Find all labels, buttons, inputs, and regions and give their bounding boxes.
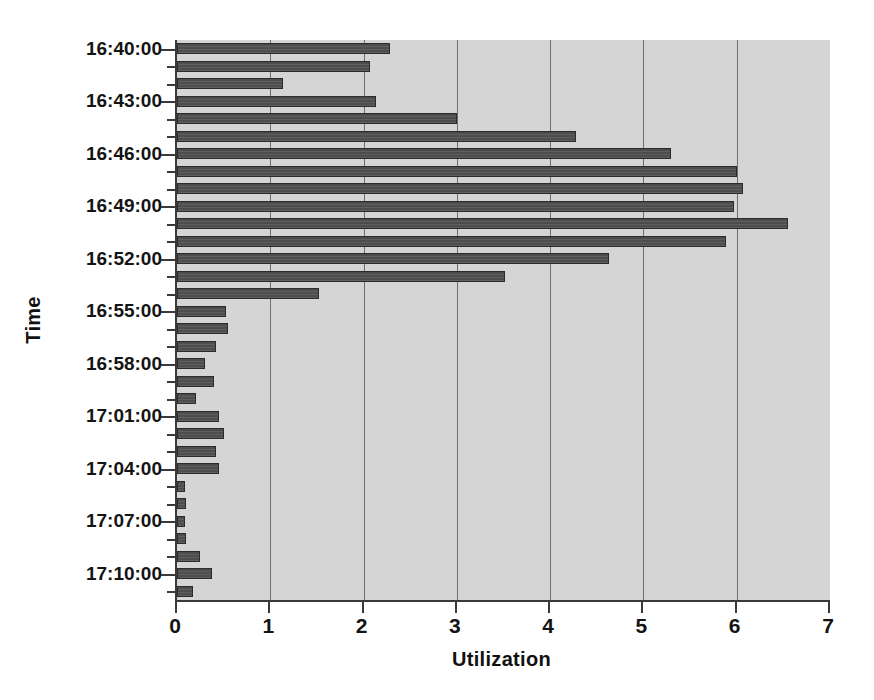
y-axis-major-tick <box>161 154 177 156</box>
bar-row <box>177 61 830 72</box>
bar-row <box>177 201 830 212</box>
bar-row <box>177 113 830 124</box>
bar-row <box>177 516 830 527</box>
y-axis-tick-label: 16:49:00 <box>86 195 162 217</box>
plot-area <box>175 40 830 602</box>
bar <box>177 131 576 142</box>
y-axis-minor-tick <box>167 381 177 383</box>
bar-row <box>177 463 830 474</box>
x-axis-tick-label: 2 <box>356 614 368 638</box>
y-axis-major-tick <box>161 521 177 523</box>
y-axis-major-tick <box>161 311 177 313</box>
y-axis-major-tick <box>161 364 177 366</box>
y-axis-major-tick <box>161 206 177 208</box>
y-axis-major-tick <box>161 259 177 261</box>
bar-row <box>177 78 830 89</box>
bar-row <box>177 218 830 229</box>
y-axis-tick-label: 17:10:00 <box>86 563 162 585</box>
bar <box>177 446 216 457</box>
y-axis-minor-tick <box>167 556 177 558</box>
y-axis-minor-tick <box>167 346 177 348</box>
bar-row <box>177 341 830 352</box>
y-axis-minor-tick <box>167 294 177 296</box>
y-axis-major-tick <box>161 101 177 103</box>
chart-root: Time 16:40:0016:43:0016:46:0016:49:0016:… <box>0 0 874 700</box>
bar-row <box>177 271 830 282</box>
plot-inner <box>177 40 830 600</box>
x-axis-tick-1 <box>268 602 270 613</box>
bar <box>177 201 734 212</box>
bar <box>177 533 186 544</box>
x-axis-tick-label: 4 <box>542 614 554 638</box>
bar-row <box>177 358 830 369</box>
y-axis-minor-tick <box>167 399 177 401</box>
bar-row <box>177 323 830 334</box>
y-axis-tick-label: 17:07:00 <box>86 510 162 532</box>
y-axis-tick-label: 16:43:00 <box>86 90 162 112</box>
x-axis-title: Utilization <box>175 648 828 671</box>
x-axis-tick-label: 1 <box>262 614 274 638</box>
x-axis-tick-7 <box>828 602 830 613</box>
x-axis-tick-label: 5 <box>636 614 648 638</box>
bar <box>177 43 390 54</box>
bar <box>177 113 457 124</box>
bar <box>177 306 226 317</box>
y-axis-minor-tick <box>167 539 177 541</box>
y-axis-major-tick <box>161 469 177 471</box>
bar <box>177 78 283 89</box>
y-axis-tick-label: 16:52:00 <box>86 248 162 270</box>
bar-row <box>177 481 830 492</box>
y-axis-minor-tick <box>167 119 177 121</box>
bar-row <box>177 253 830 264</box>
x-axis-tick-0 <box>175 602 177 613</box>
y-axis-tick-label: 17:01:00 <box>86 405 162 427</box>
bar-row <box>177 148 830 159</box>
bar-row <box>177 551 830 562</box>
bar <box>177 393 196 404</box>
bar-row <box>177 393 830 404</box>
bar <box>177 341 216 352</box>
y-axis-minor-tick <box>167 136 177 138</box>
bar <box>177 586 193 597</box>
bar <box>177 516 185 527</box>
bar <box>177 481 185 492</box>
bar-row <box>177 428 830 439</box>
y-axis-minor-tick <box>167 66 177 68</box>
x-axis-tick-label: 7 <box>822 614 834 638</box>
x-axis-tick-5 <box>641 602 643 613</box>
bar <box>177 236 726 247</box>
bar-row <box>177 533 830 544</box>
bar-row <box>177 96 830 107</box>
bar-row <box>177 586 830 597</box>
bar-row <box>177 568 830 579</box>
y-axis-minor-tick <box>167 434 177 436</box>
x-axis-tick-label: 6 <box>729 614 741 638</box>
y-axis-major-tick <box>161 574 177 576</box>
y-axis-major-tick <box>161 49 177 51</box>
x-axis-tick-4 <box>548 602 550 613</box>
x-axis-tick-label: 3 <box>449 614 461 638</box>
bar-row <box>177 376 830 387</box>
x-axis-tick-6 <box>735 602 737 613</box>
x-axis-labels: 01234567 <box>175 614 828 642</box>
y-axis-minor-tick <box>167 276 177 278</box>
bar-row <box>177 236 830 247</box>
bar <box>177 463 219 474</box>
bar-row <box>177 131 830 142</box>
bar-row <box>177 498 830 509</box>
bar-row <box>177 288 830 299</box>
y-axis-tick-label: 17:04:00 <box>86 458 162 480</box>
bar-row <box>177 446 830 457</box>
bar <box>177 183 743 194</box>
bar <box>177 551 200 562</box>
bar-row <box>177 411 830 422</box>
y-axis-minor-tick <box>167 84 177 86</box>
bar <box>177 323 228 334</box>
bar <box>177 428 224 439</box>
bar-row <box>177 306 830 317</box>
y-axis-tick-label: 16:46:00 <box>86 143 162 165</box>
bar <box>177 253 609 264</box>
bar <box>177 358 205 369</box>
bar <box>177 376 214 387</box>
y-axis-minor-tick <box>167 224 177 226</box>
